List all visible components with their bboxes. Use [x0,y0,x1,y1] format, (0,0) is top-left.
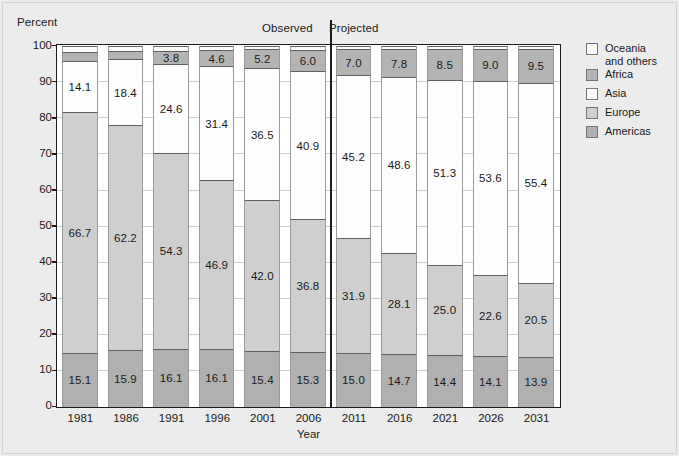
bar-1996[interactable]: 16.146.931.44.6 [199,45,235,407]
bar-segment-africa: 5.2 [244,49,280,68]
legend-item-europe[interactable]: Europe [586,106,640,119]
y-axis-tick-label: 80 [18,111,52,123]
bar-segment-oceania-and-others [244,46,280,49]
x-axis-tick-label-1991: 1991 [159,412,185,424]
x-axis-tick-label-2031: 2031 [524,412,550,424]
bar-2026[interactable]: 14.122.653.69.0 [473,45,509,407]
bar-2021[interactable]: 14.425.051.38.5 [427,45,463,407]
bar-segment-africa: 6.0 [290,50,326,72]
bar-segment-value: 18.4 [114,87,137,99]
plot-inner: 15.166.714.115.962.218.416.154.324.63.81… [57,45,560,407]
x-axis-tick-label-1981: 1981 [68,412,94,424]
bar-segment-value: 15.3 [296,374,319,386]
x-axis: 1981198619911996200120062011201620212026… [56,410,561,430]
bar-segment-value: 55.4 [525,177,548,189]
legend-item-americas[interactable]: Americas [586,125,651,138]
bar-segment-value: 40.9 [296,140,319,152]
bar-segment-value: 42.0 [251,270,274,282]
bar-segment-asia: 24.6 [153,64,189,153]
y-axis-tick-label: 70 [18,147,52,159]
bar-segment-africa [108,51,144,59]
bar-segment-value: 9.5 [528,60,544,72]
bar-segment-oceania-and-others [153,46,189,50]
legend-swatch [586,43,598,55]
bar-2006[interactable]: 15.336.840.96.0 [290,45,326,407]
x-axis-tick-label-2021: 2021 [433,412,459,424]
bar-segment-value: 45.2 [342,151,365,163]
y-axis-tick-label: 40 [18,255,52,267]
x-axis-title: Year [56,428,561,440]
legend-label: Africa [605,68,633,81]
bar-segment-oceania-and-others [62,46,98,51]
legend-label: Americas [605,125,651,138]
bar-segment-americas: 16.1 [153,349,189,407]
bar-segment-europe: 20.5 [518,283,554,357]
legend-swatch [586,88,598,100]
bar-segment-oceania-and-others [381,46,417,49]
observed-projected-divider [330,43,332,408]
bar-segment-americas: 14.7 [381,354,417,407]
bar-segment-oceania-and-others [199,46,235,50]
bar-segment-value: 14.4 [433,376,456,388]
legend-item-oceania[interactable]: Oceania and others [586,42,657,67]
bar-segment-value: 36.5 [251,129,274,141]
bar-2011[interactable]: 15.031.945.27.0 [336,45,372,407]
x-axis-tick-label-2001: 2001 [250,412,276,424]
bar-2001[interactable]: 15.442.036.55.2 [244,45,280,407]
bar-segment-value: 36.8 [296,280,319,292]
projected-label: Projected [329,22,378,34]
bar-segment-value: 46.9 [205,259,228,271]
y-axis-tick-label: 0 [18,399,52,411]
bar-segment-europe: 36.8 [290,219,326,352]
y-axis-tick-label: 90 [18,75,52,87]
bar-segment-europe: 54.3 [153,153,189,349]
bar-segment-value: 14.1 [68,81,91,93]
bar-segment-value: 25.0 [433,304,456,316]
bar-segment-value: 15.4 [251,374,274,386]
bar-segment-value: 5.2 [254,53,270,65]
bar-segment-value: 15.9 [114,373,137,385]
bar-segment-value: 13.9 [525,376,548,388]
bar-segment-value: 20.5 [525,314,548,326]
bar-segment-europe: 66.7 [62,112,98,353]
bar-segment-value: 16.1 [205,372,228,384]
bar-segment-value: 8.5 [437,59,453,71]
bar-segment-oceania-and-others [427,46,463,49]
bar-segment-asia: 40.9 [290,71,326,219]
bar-segment-europe: 42.0 [244,200,280,352]
bar-segment-europe: 62.2 [108,125,144,349]
bar-2031[interactable]: 13.920.555.49.5 [518,45,554,407]
bar-segment-value: 9.0 [482,59,498,71]
bar-segment-europe: 28.1 [381,253,417,354]
bar-segment-oceania-and-others [473,46,509,49]
legend-item-africa[interactable]: Africa [586,68,633,81]
bar-segment-value: 22.6 [479,310,502,322]
bar-segment-asia: 48.6 [381,77,417,252]
plot-area: 15.166.714.115.962.218.416.154.324.63.81… [56,44,561,408]
bar-segment-americas: 15.3 [290,352,326,407]
bar-segment-africa [62,52,98,61]
y-axis-tick-label: 100 [18,39,52,51]
bar-segment-value: 24.6 [160,103,183,115]
legend-item-asia[interactable]: Asia [586,87,626,100]
bar-segment-americas: 15.1 [62,353,98,407]
bar-segment-americas: 15.0 [336,353,372,407]
bar-segment-asia: 55.4 [518,83,554,283]
bar-segment-value: 62.2 [114,232,137,244]
bar-segment-value: 3.8 [163,52,179,64]
bar-1981[interactable]: 15.166.714.1 [62,45,98,407]
bar-segment-americas: 14.4 [427,355,463,407]
bar-segment-africa: 3.8 [153,51,189,65]
bar-2016[interactable]: 14.728.148.67.8 [381,45,417,407]
bar-segment-value: 28.1 [388,298,411,310]
x-axis-tick-label-1996: 1996 [204,412,230,424]
bar-1991[interactable]: 16.154.324.63.8 [153,45,189,407]
bar-segment-value: 15.1 [68,374,91,386]
legend-label: Europe [605,106,640,119]
bar-segment-africa: 8.5 [427,49,463,80]
y-axis: 0102030405060708090100 [8,44,52,408]
observed-label: Observed [262,22,313,34]
bar-segment-africa: 7.0 [336,49,372,74]
bar-segment-value: 51.3 [433,167,456,179]
bar-1986[interactable]: 15.962.218.4 [108,45,144,407]
